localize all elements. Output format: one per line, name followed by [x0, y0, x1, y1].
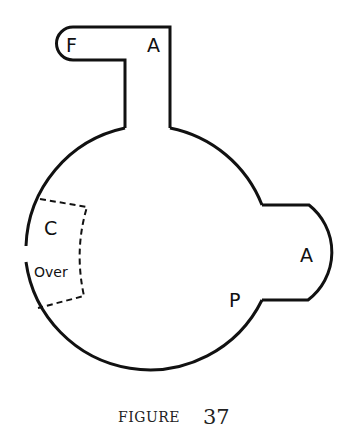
label-a-right: A — [300, 244, 313, 266]
label-c: C — [44, 217, 57, 239]
bulb-upper-left-arc — [26, 128, 125, 246]
label-f: F — [66, 34, 77, 56]
caption-word: FIGURE — [118, 409, 180, 425]
label-a-top: A — [147, 34, 160, 56]
label-p: P — [229, 289, 240, 311]
side-port-outline — [262, 205, 332, 300]
dashed-region-c-over — [38, 199, 87, 308]
caption-number: 37 — [203, 405, 230, 429]
bulb-upper-right-arc — [170, 128, 262, 205]
label-over: Over — [34, 264, 68, 280]
figure-37-diagram: F A C Over A P FIGURE 37 — [0, 0, 341, 438]
